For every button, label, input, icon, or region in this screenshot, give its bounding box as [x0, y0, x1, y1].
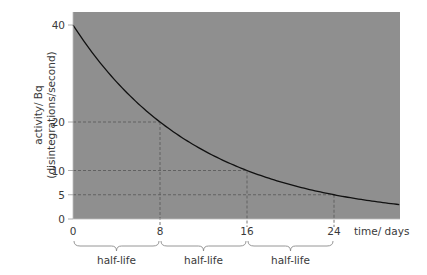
y-tick-label: 0 — [58, 213, 65, 225]
x-axis-label: time/ days — [354, 225, 409, 237]
half-life-label: half-life — [271, 254, 310, 266]
half-life-label: half-life — [184, 254, 223, 266]
y-axis-label: activity/ Bq — [32, 85, 44, 144]
half-life-brace — [74, 241, 159, 251]
x-ticks: 081624 — [70, 225, 341, 237]
x-tick-label: 16 — [240, 225, 254, 237]
x-tick-label: 24 — [327, 225, 341, 237]
y-axis-label-units: (disintegrations/second) — [45, 51, 57, 178]
x-tick-label: 0 — [70, 225, 77, 237]
x-tick-label: 8 — [157, 225, 164, 237]
plot-area — [73, 12, 400, 219]
half-life-label: half-life — [97, 254, 136, 266]
half-life-decay-chart: 05102040 081624 time/ days activity/ Bq … — [0, 0, 427, 275]
half-life-brace — [248, 241, 333, 251]
y-tick-label: 5 — [58, 189, 65, 201]
half-life-brace — [161, 241, 246, 251]
half-life-braces: half-lifehalf-lifehalf-life — [74, 241, 333, 266]
y-tick-label: 40 — [52, 19, 65, 31]
